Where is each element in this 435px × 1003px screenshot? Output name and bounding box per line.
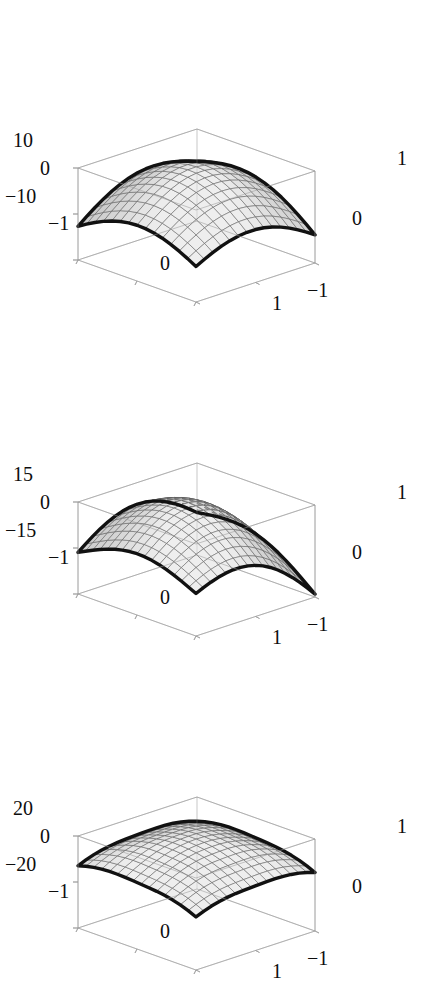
y_ticks-tick-label: 0 <box>352 542 362 562</box>
y_ticks-tick-label: −1 <box>307 280 328 300</box>
x_ticks-tick-label: −1 <box>48 881 69 901</box>
surface-plot-canvas <box>0 0 435 334</box>
y_ticks-tick-label: 1 <box>397 816 407 836</box>
x_ticks-tick-label: 1 <box>272 293 282 313</box>
surface-plot-panel-2: 150−15−10110−1 <box>0 334 435 668</box>
y_ticks-tick-label: 1 <box>397 482 407 502</box>
surface-plot-canvas <box>0 668 435 1002</box>
z_ticks-tick-label: 20 <box>13 798 33 818</box>
x_ticks-tick-label: 1 <box>272 627 282 647</box>
y_ticks-tick-label: 1 <box>397 148 407 168</box>
z_ticks-tick-label: 0 <box>40 158 50 178</box>
z_ticks-tick-label: −20 <box>5 854 36 874</box>
z_ticks-tick-label: −10 <box>5 186 36 206</box>
z_ticks-tick-label: 10 <box>13 130 33 150</box>
z_ticks-tick-label: −15 <box>5 520 36 540</box>
z_ticks-tick-label: 0 <box>40 492 50 512</box>
z_ticks-tick-label: 0 <box>40 826 50 846</box>
three-dimensional-surface-plot-figure: 100−10−10110−1 150−15−10110−1 200−20−101… <box>0 0 435 1003</box>
x_ticks-tick-label: 0 <box>160 587 170 607</box>
surface-plot-panel-1: 100−10−10110−1 <box>0 0 435 334</box>
x_ticks-tick-label: −1 <box>48 213 69 233</box>
x_ticks-tick-label: 0 <box>160 921 170 941</box>
y_ticks-tick-label: 0 <box>352 208 362 228</box>
y_ticks-tick-label: −1 <box>307 614 328 634</box>
y_ticks-tick-label: 0 <box>352 876 362 896</box>
x_ticks-tick-label: 1 <box>272 961 282 981</box>
x_ticks-tick-label: −1 <box>48 547 69 567</box>
surface-plot-canvas <box>0 334 435 668</box>
y_ticks-tick-label: −1 <box>307 948 328 968</box>
x_ticks-tick-label: 0 <box>160 253 170 273</box>
surface-plot-panel-3: 200−20−10110−1 <box>0 668 435 1002</box>
z_ticks-tick-label: 15 <box>13 464 33 484</box>
